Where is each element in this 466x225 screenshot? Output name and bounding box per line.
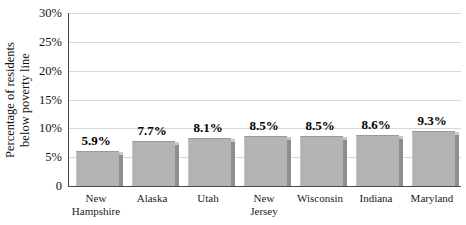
bar (300, 137, 347, 186)
bar (188, 139, 235, 186)
x-axis-category-label: NewHampshire (64, 192, 128, 217)
gridline (69, 13, 461, 14)
x-axis-category-label: Wisconsin (288, 192, 352, 205)
bar-front-face (300, 136, 343, 186)
bar-front-face (244, 136, 287, 186)
x-axis-category-label: Alaska (120, 192, 184, 205)
gridline (69, 71, 461, 72)
gridline (69, 42, 461, 43)
x-axis-category-label-line: Maryland (400, 192, 464, 205)
bar-value-label: 5.9% (66, 133, 126, 149)
bar-value-label: 8.5% (234, 118, 294, 134)
x-axis-category-label-line: Wisconsin (288, 192, 352, 205)
bar-value-label: 8.5% (290, 118, 350, 134)
bar-value-label: 8.1% (178, 120, 238, 136)
x-axis-category-label-line: Indiana (344, 192, 408, 205)
bar-front-face (188, 138, 231, 186)
x-axis-category-label-line: Jersey (232, 205, 296, 218)
bar (244, 137, 291, 186)
plot-area (68, 13, 461, 187)
y-axis-tick-label: 0 (2, 180, 62, 192)
bar-value-label: 7.7% (122, 123, 182, 139)
bar-front-face (356, 135, 399, 186)
bar-front-face (76, 151, 119, 186)
x-axis-category-label-line: New (64, 192, 128, 205)
x-axis-category-label-line: Hampshire (64, 205, 128, 218)
x-axis-category-label: Maryland (400, 192, 464, 205)
x-axis-category-label-line: Utah (176, 192, 240, 205)
x-axis-category-label: Indiana (344, 192, 408, 205)
gridline (69, 100, 461, 101)
y-axis-tick-label: 5% (2, 151, 62, 163)
y-axis-tick-label: 20% (2, 65, 62, 77)
x-axis-category-label: NewJersey (232, 192, 296, 217)
y-axis-tick-label: 10% (2, 122, 62, 134)
bar (132, 142, 179, 186)
bar-chart: Percentage of residents below poverty li… (0, 0, 466, 225)
bar (356, 136, 403, 186)
x-axis-category-label-line: Alaska (120, 192, 184, 205)
x-axis-category-label-line: New (232, 192, 296, 205)
x-axis-category-label: Utah (176, 192, 240, 205)
y-axis-tick-label: 30% (2, 7, 62, 19)
y-axis-tick-label: 25% (2, 36, 62, 48)
bar-front-face (132, 141, 175, 186)
bar (412, 132, 459, 186)
bar-value-label: 8.6% (346, 117, 406, 133)
bar (76, 152, 123, 186)
y-axis-tick-label: 15% (2, 94, 62, 106)
bar-value-label: 9.3% (402, 113, 462, 129)
bar-front-face (412, 131, 455, 186)
